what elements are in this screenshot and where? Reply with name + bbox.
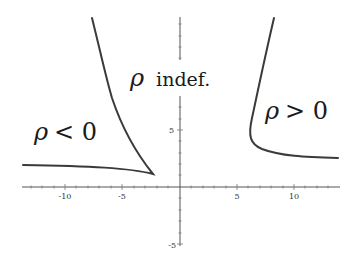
label-rho-positive: ρ> 0 <box>264 97 328 125</box>
y-tick-label: 5 <box>169 126 174 135</box>
label-rho-indefinite: ρindef. <box>129 64 210 92</box>
phase-diagram: -10 -5 5 10 5 -5 ρ< 0 ρindef. ρ> 0 <box>0 0 355 262</box>
y-tick-label: -5 <box>168 241 176 250</box>
x-axis: -10 -5 5 10 <box>22 184 340 201</box>
x-tick-label: 5 <box>234 192 239 201</box>
y-axis: 5 -5 <box>168 17 183 250</box>
left-boundary-curve <box>23 18 153 174</box>
x-tick-label: 10 <box>289 192 299 201</box>
x-tick-label: -5 <box>118 192 126 201</box>
right-boundary-curve <box>250 18 338 158</box>
x-tick-label: -10 <box>59 192 72 201</box>
label-rho-negative: ρ< 0 <box>33 118 97 146</box>
